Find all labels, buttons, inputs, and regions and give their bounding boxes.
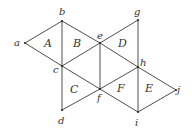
vertex-label-h: h: [140, 57, 146, 68]
vertex-label-f: f: [96, 92, 103, 103]
edge-h-j: [138, 67, 176, 90]
vertex-b: [61, 20, 63, 22]
vertex-h: [137, 66, 139, 68]
vertex-label-b: b: [59, 6, 65, 17]
vertex-a: [24, 42, 26, 44]
vertex-d: [61, 109, 63, 111]
face-label-F: F: [116, 82, 125, 95]
vertex-label-c: c: [53, 64, 59, 75]
vertex-label-d: d: [58, 115, 64, 126]
vertex-f: [99, 88, 101, 90]
face-label-E: E: [144, 82, 153, 95]
face-label-C: C: [70, 83, 79, 96]
vertex-label-e: e: [97, 30, 103, 41]
edge-d-f: [62, 89, 100, 110]
vertex-labels-group: abcdefghij: [14, 6, 180, 128]
face-label-D: D: [117, 37, 127, 50]
face-label-B: B: [72, 37, 81, 50]
vertex-c: [61, 65, 63, 67]
vertex-label-g: g: [134, 6, 140, 17]
edge-i-j: [138, 90, 176, 112]
vertex-e: [99, 42, 101, 44]
vertex-label-i: i: [135, 117, 138, 128]
vertex-label-a: a: [14, 37, 20, 48]
vertex-g: [137, 19, 139, 21]
diagram-canvas: abcdefghij ABCDFE: [0, 0, 192, 131]
face-label-A: A: [43, 37, 52, 50]
edge-c-f: [62, 66, 100, 89]
vertex-i: [137, 111, 139, 113]
triangle-net-diagram: abcdefghij ABCDFE: [0, 0, 192, 131]
